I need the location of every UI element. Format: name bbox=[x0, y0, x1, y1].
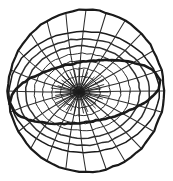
sphere-diagram: Wireframe sphere with radial hub Hand-dr… bbox=[0, 0, 173, 181]
wireframe-sphere-figure: Wireframe sphere with radial hub Hand-dr… bbox=[0, 0, 173, 181]
